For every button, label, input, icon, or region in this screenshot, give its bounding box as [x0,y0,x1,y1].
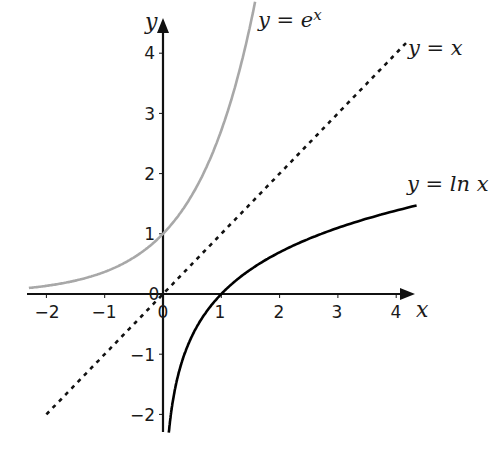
y-tick-label: 3 [144,104,155,124]
x-tick-label: −2 [34,302,59,322]
label-identity: y = x [407,36,463,60]
label-exp-base: y = e [257,8,313,32]
x-tick-label: 1 [215,302,226,322]
x-tick-labels: −2 −1 0 1 2 3 4 [34,302,401,322]
label-ln: y = ln x [406,172,489,196]
y-axis-arrow-icon [157,18,169,33]
x-axis-arrow-icon [400,288,415,300]
curve-exp [29,2,255,288]
x-tick-label: 0 [158,302,169,322]
y-tick-labels: 4 3 2 1 −1 −2 0 [130,43,159,425]
x-tick-label: −1 [91,302,116,322]
x-tick-label: 3 [332,302,343,322]
y-tick-label: 4 [144,43,155,63]
label-exp-sup: x [313,6,322,24]
origin-label: 0 [149,284,160,304]
y-tick-label: −1 [130,345,155,365]
y-tick-label: −2 [130,405,155,425]
label-exp: y = ex [257,6,322,32]
y-tick-label: 1 [144,224,155,244]
function-graph: −2 −1 0 1 2 3 4 4 3 2 1 −1 −2 0 y x y = … [0,0,504,451]
y-axis-name: y [144,9,158,34]
y-tick-label: 2 [144,164,155,184]
curve-identity [46,41,408,414]
axes [27,18,415,432]
x-tick-label: 4 [391,302,402,322]
x-axis-name: x [416,297,429,322]
curve-ln [169,206,417,433]
x-tick-label: 2 [274,302,285,322]
